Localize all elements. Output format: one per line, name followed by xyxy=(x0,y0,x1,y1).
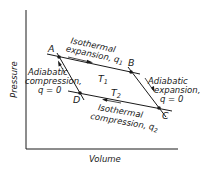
isothermal-compression-label: Isothermal compression, q2 xyxy=(89,101,160,134)
y-axis-label: Pressure xyxy=(9,61,19,98)
point-b-label: B xyxy=(128,57,135,68)
point-a-label: A xyxy=(47,43,55,54)
point-d-label: D xyxy=(73,94,80,105)
isothermal-expansion-label: Isothermal expansion, q1 xyxy=(65,35,126,67)
temperature-t2-label: T2 xyxy=(111,87,121,100)
point-c-dot xyxy=(157,106,161,110)
adiabatic-compression-line3: q = 0 xyxy=(38,85,61,95)
point-c-label: C xyxy=(162,110,169,121)
carnot-diagram: Pressure Volume A B C D T1 T2 Isothermal… xyxy=(0,0,209,176)
temperature-t1-label: T1 xyxy=(98,73,108,86)
adiabatic-expansion-line3: q = 0 xyxy=(160,94,183,104)
point-a-dot xyxy=(57,55,61,59)
x-axis-label: Volume xyxy=(89,154,121,164)
point-b-dot xyxy=(129,70,133,74)
